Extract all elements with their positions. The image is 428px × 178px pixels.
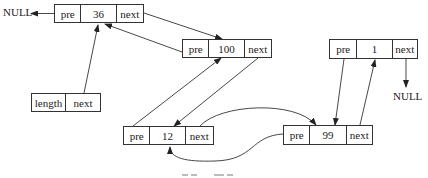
head-node: length next — [31, 93, 101, 112]
node-next-cell: next — [347, 126, 372, 144]
node-value-cell: 36 — [81, 5, 116, 22]
node-pre-cell: pre — [55, 5, 81, 22]
arrow-n36-next-to-n100 — [144, 13, 222, 39]
arrow-n1-pre-to-n99 — [335, 59, 344, 125]
head-next-cell: next — [66, 94, 100, 111]
head-length-cell: length — [32, 94, 66, 111]
null-label-right: NULL — [393, 90, 422, 102]
list-node-1: pre 1 next — [329, 39, 418, 59]
list-node-36: pre 36 next — [54, 4, 144, 23]
node-value-cell: 100 — [209, 40, 244, 57]
list-node-12: pre 12 next — [123, 126, 214, 145]
list-node-99: pre 99 next — [283, 125, 373, 145]
node-value-cell: 99 — [310, 126, 346, 144]
arrow-n100-pre-to-n36 — [105, 24, 182, 52]
node-next-cell: next — [393, 40, 417, 58]
figure-caption-clipped — [182, 174, 242, 178]
null-label-left: NULL — [3, 6, 32, 18]
node-value-cell: 1 — [357, 40, 392, 58]
linked-list-diagram: NULL NULL length next pre 36 next pre 10… — [0, 0, 428, 178]
node-value-cell: 12 — [150, 127, 185, 144]
node-next-cell: next — [117, 5, 143, 22]
node-next-cell: next — [245, 40, 271, 57]
arrows-layer — [0, 0, 428, 178]
node-pre-cell: pre — [330, 40, 357, 58]
node-pre-cell: pre — [183, 40, 209, 57]
arrow-n12-next-to-n99 — [200, 108, 316, 126]
arrow-n99-next-to-n1 — [360, 60, 375, 125]
node-next-cell: next — [186, 127, 213, 144]
arrow-head-next-to-n36 — [84, 25, 98, 93]
arrow-n12-pre-to-n100 — [133, 58, 221, 126]
node-pre-cell: pre — [284, 126, 310, 144]
list-node-100: pre 100 next — [182, 39, 272, 58]
node-pre-cell: pre — [124, 127, 150, 144]
